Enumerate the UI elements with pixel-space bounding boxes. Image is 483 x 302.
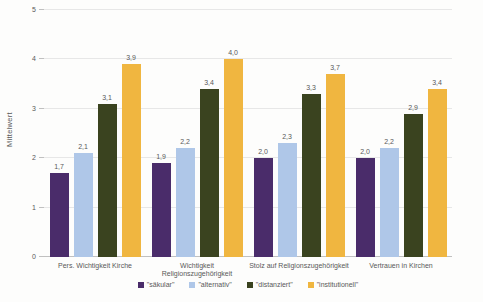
bar: 3,9 xyxy=(122,64,141,257)
x-axis-label: Wichtigkeit Religionszugehörigkeit xyxy=(146,262,248,277)
bar: 3,3 xyxy=(302,94,321,257)
bar: 2,2 xyxy=(380,148,399,257)
y-tick-label: 3 xyxy=(32,105,36,112)
y-tick-label: 1 xyxy=(32,204,36,211)
x-axis-label: Vertrauen in Kirchen xyxy=(350,262,452,277)
legend-swatch xyxy=(138,282,144,288)
legend-swatch xyxy=(189,282,195,288)
bar-groups: 1,72,13,13,91,92,23,44,02,02,33,33,72,02… xyxy=(44,10,452,257)
bar-value-label: 3,7 xyxy=(330,64,340,71)
y-tick-label: 0 xyxy=(32,253,36,260)
bar: 2,2 xyxy=(176,148,195,257)
bar-group: 1,72,13,13,9 xyxy=(44,10,146,257)
bar-value-label: 3,3 xyxy=(306,84,316,91)
bar: 4,0 xyxy=(224,59,243,257)
legend-label: "distanziert" xyxy=(256,281,293,288)
bar-value-label: 2,9 xyxy=(408,104,418,111)
bar-value-label: 3,1 xyxy=(102,94,112,101)
bar-group: 2,02,22,93,4 xyxy=(350,10,452,257)
bar: 1,9 xyxy=(152,163,171,257)
bar-value-label: 2,1 xyxy=(78,143,88,150)
bar: 3,7 xyxy=(326,74,345,257)
legend-item: "distanziert" xyxy=(247,281,293,288)
legend-swatch xyxy=(247,282,253,288)
bar-value-label: 2,2 xyxy=(384,138,394,145)
legend: "säkular""alternativ""distanziert""insti… xyxy=(44,281,452,288)
bar-value-label: 2,3 xyxy=(282,133,292,140)
bar-value-label: 2,0 xyxy=(258,148,268,155)
bar-value-label: 2,2 xyxy=(180,138,190,145)
legend-item: "säkular" xyxy=(138,281,175,288)
bar: 3,4 xyxy=(200,89,219,257)
legend-swatch xyxy=(308,282,314,288)
legend-item: "institutionell" xyxy=(308,281,359,288)
legend-label: "institutionell" xyxy=(317,281,359,288)
bar: 3,1 xyxy=(98,104,117,257)
bar-value-label: 4,0 xyxy=(228,49,238,56)
bar-chart: Mittelwert 0123451,72,13,13,91,92,23,44,… xyxy=(0,0,483,302)
y-tick-label: 2 xyxy=(32,154,36,161)
bar: 2,1 xyxy=(74,153,93,257)
bar: 2,0 xyxy=(356,158,375,257)
bar-value-label: 3,9 xyxy=(126,54,136,61)
bar: 1,7 xyxy=(50,173,69,257)
bar-group: 1,92,23,44,0 xyxy=(146,10,248,257)
legend-label: "alternativ" xyxy=(198,281,231,288)
x-axis-label: Pers. Wichtigkeit Kirche xyxy=(44,262,146,277)
y-axis-title: Mittelwert xyxy=(5,112,14,147)
bar: 2,3 xyxy=(278,143,297,257)
bar-group: 2,02,33,33,7 xyxy=(248,10,350,257)
bar-value-label: 3,4 xyxy=(204,79,214,86)
bar: 2,9 xyxy=(404,114,423,257)
bar-value-label: 2,0 xyxy=(360,148,370,155)
bar-value-label: 1,7 xyxy=(54,163,64,170)
bar: 2,0 xyxy=(254,158,273,257)
bar: 3,4 xyxy=(428,89,447,257)
x-axis-labels: Pers. Wichtigkeit KircheWichtigkeit Reli… xyxy=(44,262,452,277)
bar-value-label: 1,9 xyxy=(156,153,166,160)
y-tick-label: 5 xyxy=(32,6,36,13)
plot-area: 0123451,72,13,13,91,92,23,44,02,02,33,33… xyxy=(44,10,452,257)
x-axis-label: Stolz auf Religionszugehörigkeit xyxy=(248,262,350,277)
y-tick-label: 4 xyxy=(32,55,36,62)
legend-label: "säkular" xyxy=(147,281,175,288)
bar-value-label: 3,4 xyxy=(432,79,442,86)
legend-item: "alternativ" xyxy=(189,281,231,288)
